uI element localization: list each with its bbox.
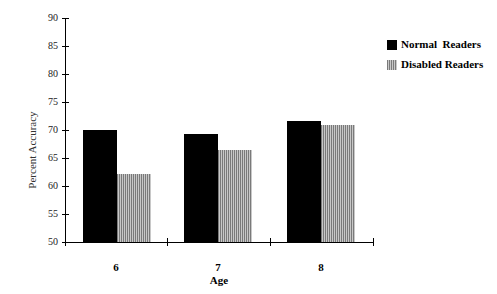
y-axis-tick — [62, 74, 69, 75]
bar-normal-readers-age-7 — [184, 134, 218, 242]
x-category-label: 6 — [101, 261, 131, 273]
x-axis-tick — [270, 238, 271, 246]
y-tick-label: 75 — [36, 97, 58, 107]
x-category-label: 7 — [203, 261, 233, 273]
x-category-label: 8 — [306, 261, 336, 273]
legend-swatch-normal-readers — [387, 40, 397, 50]
y-tick-label: 55 — [36, 209, 58, 219]
y-axis-tick — [62, 102, 69, 103]
y-tick-label: 80 — [36, 69, 58, 79]
bar-disabled-readers-age-8 — [321, 125, 355, 242]
x-axis-tick — [65, 238, 66, 246]
legend-label-disabled-readers: Disabled Readers — [401, 58, 483, 70]
legend-swatch-disabled-readers — [387, 60, 397, 70]
x-axis-tick — [373, 238, 374, 246]
y-axis-line — [65, 19, 66, 243]
y-axis-tick — [62, 186, 69, 187]
bar-disabled-readers-age-6 — [117, 174, 151, 242]
y-axis-tick — [62, 18, 69, 19]
y-tick-label: 60 — [36, 181, 58, 191]
bar-normal-readers-age-8 — [287, 121, 321, 242]
y-axis-tick — [62, 46, 69, 47]
bar-disabled-readers-age-7 — [218, 150, 252, 242]
y-axis-label: Percent Accuracy — [26, 100, 38, 200]
y-axis-tick — [62, 130, 69, 131]
y-tick-label: 85 — [36, 41, 58, 51]
y-tick-label: 70 — [36, 125, 58, 135]
y-axis-tick — [62, 214, 69, 215]
bar-normal-readers-age-6 — [83, 130, 117, 242]
y-tick-label: 65 — [36, 153, 58, 163]
y-axis-tick — [62, 158, 69, 159]
x-axis-label: Age — [204, 274, 234, 286]
legend-label-normal-readers: Normal Readers — [401, 38, 481, 50]
y-tick-label: 50 — [36, 237, 58, 247]
x-axis-tick — [167, 238, 168, 246]
x-axis-line — [65, 242, 374, 243]
y-tick-label: 90 — [36, 13, 58, 23]
